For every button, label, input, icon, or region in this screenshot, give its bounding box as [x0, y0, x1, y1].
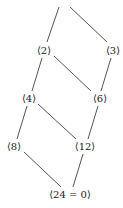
- edge-top-2: [47, 7, 59, 42]
- edge-4-8: [17, 106, 27, 139]
- edge-top-3: [70, 7, 107, 42]
- node-4: ⟨4⟩: [22, 94, 36, 104]
- edge-4-12: [38, 104, 76, 139]
- edge-12-24: [73, 154, 83, 187]
- lattice-edges: [0, 0, 123, 208]
- node-6: ⟨6⟩: [93, 94, 107, 104]
- node-24-zero: ⟨24 = 0⟩: [49, 190, 91, 200]
- edge-6-12: [88, 106, 98, 139]
- node-2: ⟨2⟩: [37, 46, 51, 56]
- node-3: ⟨3⟩: [106, 46, 120, 56]
- edge-8-24: [24, 152, 61, 187]
- node-12: ⟨12⟩: [75, 142, 96, 152]
- edge-3-6: [101, 58, 111, 91]
- edge-2-6: [54, 56, 91, 91]
- node-8: ⟨8⟩: [7, 142, 21, 152]
- edge-2-4: [32, 58, 42, 91]
